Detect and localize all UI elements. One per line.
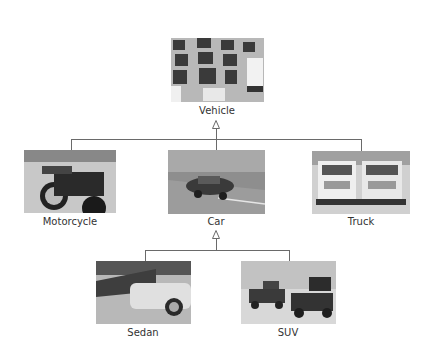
motorcycle-image [24,150,116,213]
motorcycle-label: Motorcycle [15,216,125,228]
vehicle-image [171,38,264,102]
connector-line [145,250,290,251]
truck-label: Truck [306,216,416,228]
connector-line [289,250,290,261]
connector-line [361,139,362,151]
sedan-label: Sedan [88,327,198,339]
connector-line [71,139,362,140]
connector-line [145,250,146,261]
vehicle-label: Vehicle [162,105,272,117]
car-label: Car [161,216,271,228]
inheritance-arrow-icon [212,120,220,128]
sedan-image [96,261,191,324]
truck-image [312,151,410,214]
connector-line [216,239,217,250]
car-image [168,150,265,214]
connector-line [71,139,72,150]
suv-image [241,261,336,324]
inheritance-arrow-icon [212,230,220,238]
suv-label: SUV [233,327,343,339]
